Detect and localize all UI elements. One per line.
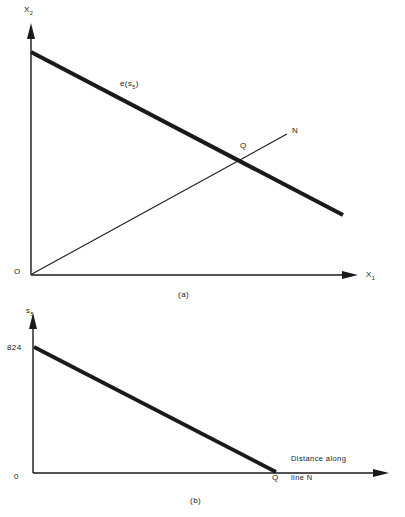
figure-container: X2 X1 O e(s5) N Q (a) s5 824 0 Q Distanc… xyxy=(0,0,405,517)
panel-a-graphics xyxy=(27,23,358,279)
panel-b-x-axis-label-line2: line N xyxy=(291,474,313,482)
panel-a-x-axis-arrowhead xyxy=(342,271,358,279)
panel-b-y-value-label: 824 xyxy=(7,344,22,352)
panel-b-origin-label: 0 xyxy=(14,473,19,481)
panel-a-caption: (a) xyxy=(178,291,189,299)
panel-b-graphics xyxy=(29,313,389,477)
panel-a-curve-label-e-s5: e(s5) xyxy=(120,80,139,90)
panel-a-origin-label: O xyxy=(14,268,21,276)
panel-b-x-axis-arrowhead xyxy=(373,469,389,477)
panel-b-x-axis-label-line1: Distance along xyxy=(291,455,346,463)
panel-b-y-axis-label: s5 xyxy=(26,307,34,317)
figure-vector-graphics xyxy=(0,0,405,517)
panel-b-curve-s5 xyxy=(34,347,276,472)
panel-a-line-n xyxy=(32,134,287,274)
cropped-caption-sliver xyxy=(0,509,405,517)
panel-a-intersection-label-q: Q xyxy=(240,142,247,150)
panel-b-caption: (b) xyxy=(190,497,201,505)
panel-a-line-n-label: N xyxy=(292,127,298,135)
panel-b-zero-point-label-q: Q xyxy=(272,474,279,482)
panel-a-y-axis-arrowhead xyxy=(27,23,35,39)
panel-a-x-axis-label: X1 xyxy=(366,271,375,281)
panel-a-y-axis-label: X2 xyxy=(24,6,33,16)
